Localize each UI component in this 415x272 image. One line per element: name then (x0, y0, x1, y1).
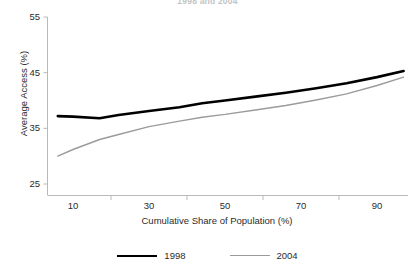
legend-swatch-1998-icon (117, 255, 157, 257)
legend-swatch-2004-icon (230, 255, 270, 256)
plot-area (0, 0, 415, 272)
y-axis-ticks (44, 17, 48, 184)
chart-legend: 1998 2004 (0, 250, 415, 261)
chart-figure: 1998 and 2004 55 45 35 25 10 30 50 70 90… (0, 0, 415, 272)
data-series-group (58, 71, 404, 156)
legend-entry-1998: 1998 (117, 250, 185, 261)
legend-label-1998: 1998 (164, 250, 185, 261)
series-line-1998 (58, 71, 404, 118)
x-axis-ticks (111, 196, 339, 201)
legend-entry-2004: 2004 (230, 250, 298, 261)
legend-label-2004: 2004 (277, 250, 298, 261)
